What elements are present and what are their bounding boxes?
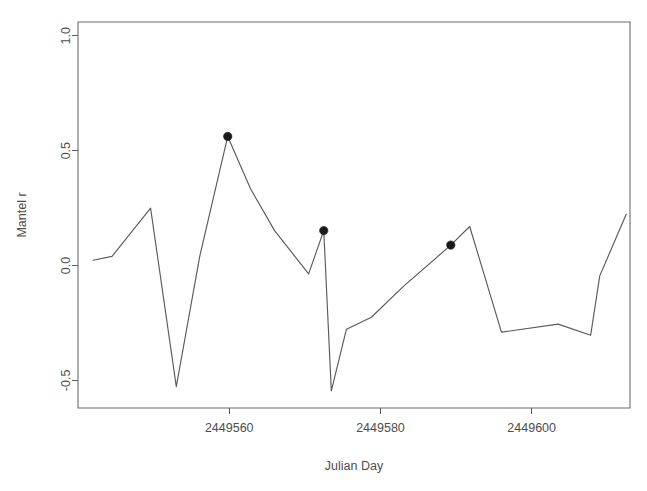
y-axis-title: Mantel r [15, 192, 29, 237]
y-axis-tick-labels: -0.50.00.51.0 [59, 27, 73, 391]
plot-box-frame [78, 22, 630, 408]
series-highlighted-points [224, 132, 455, 249]
series-line-mantel-r [93, 136, 626, 390]
data-point-1 [320, 226, 328, 234]
x-tick-label-2: 2449600 [507, 421, 556, 435]
y-tick-label-0: -0.5 [59, 370, 73, 392]
data-point-0 [224, 132, 232, 140]
x-axis-title: Julian Day [325, 459, 384, 473]
y-axis-ticks [72, 36, 78, 381]
y-tick-label-3: 1.0 [59, 27, 73, 44]
data-point-2 [447, 241, 455, 249]
y-tick-label-1: 0.0 [59, 257, 73, 274]
y-tick-label-2: 0.5 [59, 142, 73, 159]
x-axis-tick-labels: 244956024495802449600 [205, 421, 556, 435]
x-tick-label-0: 2449560 [205, 421, 254, 435]
mantel-r-line-chart: -0.50.00.51.0 244956024495802449600 Juli… [0, 0, 647, 491]
x-axis-ticks [229, 408, 531, 414]
chart-figure: -0.50.00.51.0 244956024495802449600 Juli… [0, 0, 647, 491]
x-tick-label-1: 2449580 [356, 421, 405, 435]
